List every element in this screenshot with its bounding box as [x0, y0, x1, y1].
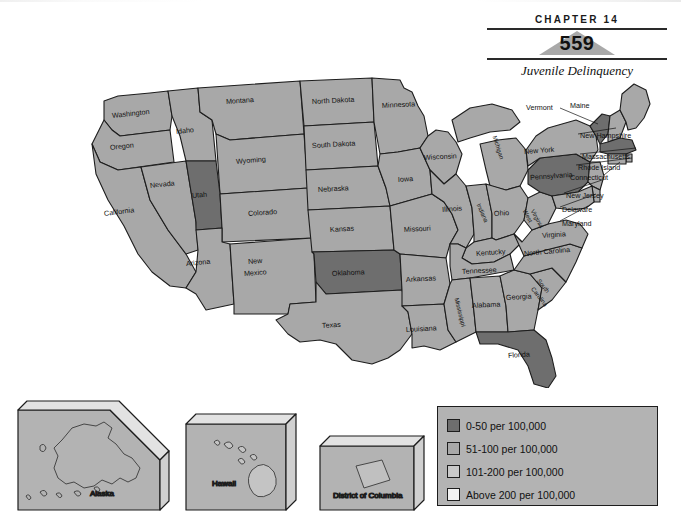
- chapter-label: CHAPTER 14: [487, 14, 667, 26]
- page-number: 559: [487, 30, 667, 56]
- legend-swatch-101-200: [447, 465, 460, 478]
- map-legend: 0-50 per 100,000 51-100 per 100,000 101-…: [437, 406, 658, 506]
- legend-swatch-51-100: [447, 442, 460, 455]
- dc-box-side: [414, 436, 424, 510]
- state-wyoming: [216, 134, 308, 194]
- label-nebraska: Nebraska: [318, 183, 349, 194]
- inset-maps: Alaska Hawaii District of Columbia: [0, 392, 430, 522]
- label-maine: Maine: [570, 101, 590, 110]
- label-maryland: Maryland: [562, 219, 592, 228]
- label-alabama: Alabama: [472, 299, 501, 309]
- label-new-mexico-line1: New: [248, 256, 264, 266]
- label-new-jersey: New Jersey: [566, 191, 604, 200]
- label-illinois: Illinois: [442, 203, 463, 213]
- label-iowa: Iowa: [398, 174, 414, 184]
- hawaii-box-face: [186, 424, 286, 510]
- inset-district-of-columbia: District of Columbia: [320, 436, 424, 510]
- inset-label-district-of-columbia: District of Columbia: [333, 491, 403, 500]
- legend-swatch-0-50: [447, 419, 460, 432]
- state-michigan: [452, 104, 528, 190]
- label-florida: Florida: [508, 349, 531, 360]
- inset-hawaii: Hawaii: [186, 414, 296, 510]
- dc-box-top: [320, 436, 424, 446]
- legend-label-51-100: 51-100 per 100,000: [466, 443, 558, 455]
- inset-label-hawaii: Hawaii: [212, 479, 236, 488]
- label-texas: Texas: [322, 320, 342, 330]
- us-choropleth-map: Washington Oregon Idaho Montana Wyoming …: [0, 58, 681, 388]
- legend-label-101-200: 101-200 per 100,000: [466, 466, 564, 478]
- legend-label-0-50: 0-50 per 100,000: [466, 420, 546, 432]
- label-wisconsin: Wisconsin: [424, 151, 457, 162]
- legend-row: 51-100 per 100,000: [447, 437, 657, 460]
- label-idaho: Idaho: [175, 125, 194, 136]
- label-georgia: Georgia: [506, 292, 532, 302]
- legend-row: 101-200 per 100,000: [447, 460, 657, 483]
- page-number-block: 559: [487, 30, 667, 56]
- legend-row: Above 200 per 100,000: [447, 483, 657, 506]
- label-connecticut: Connecticut: [570, 173, 608, 182]
- label-louisiana: Louisiana: [406, 323, 437, 334]
- hawaii-box-side: [286, 414, 296, 510]
- legend-row: 0-50 per 100,000: [447, 414, 657, 437]
- label-utah: Utah: [192, 190, 208, 200]
- label-virginia: Virginia: [542, 229, 566, 240]
- label-new-mexico-line2: Mexico: [244, 267, 267, 278]
- legend-swatch-above-200: [447, 488, 460, 501]
- label-ohio: Ohio: [494, 208, 510, 218]
- inset-label-alaska: Alaska: [90, 489, 115, 498]
- label-missouri: Missouri: [404, 223, 432, 233]
- hawaii-box-top: [186, 414, 296, 424]
- state-minnesota: [372, 78, 428, 154]
- legend-label-above-200: Above 200 per 100,000: [466, 489, 575, 501]
- label-arkansas: Arkansas: [406, 273, 437, 284]
- label-kansas: Kansas: [330, 224, 355, 234]
- scan-edge: [0, 0, 681, 2]
- alaska-box-side: [160, 451, 169, 510]
- inset-alaska: Alaska: [18, 401, 169, 510]
- label-minnesota: Minnesota: [382, 99, 416, 110]
- label-vermont: Vermont: [526, 103, 553, 112]
- state-montana: [198, 81, 304, 140]
- label-oklahoma: Oklahoma: [332, 267, 365, 278]
- label-tennessee: Tennessee: [462, 265, 497, 276]
